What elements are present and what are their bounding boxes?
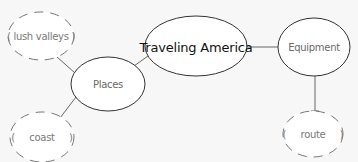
edge-places-lush-valleys [57, 57, 75, 73]
coast-node-label: ( coast ) [11, 133, 72, 143]
mind-map-canvas: Traveling America Places Equipment ( lus… [0, 0, 358, 162]
lush-valleys-node-label: ( lush valleys ) [7, 32, 75, 42]
places-node-label: Places [93, 80, 123, 90]
route-node-label: ( route ) [283, 130, 344, 140]
edge-places-coast [60, 97, 76, 118]
equipment-node-label: Equipment [288, 43, 340, 53]
central-node-label: Traveling America [139, 41, 252, 54]
edge-central-places [134, 56, 148, 66]
